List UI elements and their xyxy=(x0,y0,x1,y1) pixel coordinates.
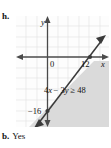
origin-label: 0 xyxy=(50,59,54,69)
y-intercept-label: −16 xyxy=(28,106,41,116)
x-axis-label: x xyxy=(100,59,105,69)
inequality-relation: ≥ xyxy=(70,85,75,95)
coordinate-plane: 0 12 −16 x y 4x− 3y≥48 xyxy=(16,16,109,127)
answer-letter: b. xyxy=(2,131,9,141)
item-letter-label: h. xyxy=(2,11,9,21)
inequality-minus-term: − 3 xyxy=(54,85,65,95)
inequality-var-y: y xyxy=(64,85,69,95)
answer-text: Yes xyxy=(12,131,25,141)
answer-line: b.Yes xyxy=(2,131,25,141)
inequality-var-x: x xyxy=(47,85,52,95)
y-intercept-point xyxy=(45,109,49,113)
figure-root: h. xyxy=(0,0,111,148)
coordinate-plane-svg: 0 12 −16 x y 4x− 3y≥48 xyxy=(16,16,109,127)
y-axis-label: y xyxy=(40,17,45,27)
inequality-constant: 48 xyxy=(77,85,86,95)
inequality-label: 4x− 3y≥48 xyxy=(44,85,86,95)
x-intercept-label: 12 xyxy=(81,59,90,69)
